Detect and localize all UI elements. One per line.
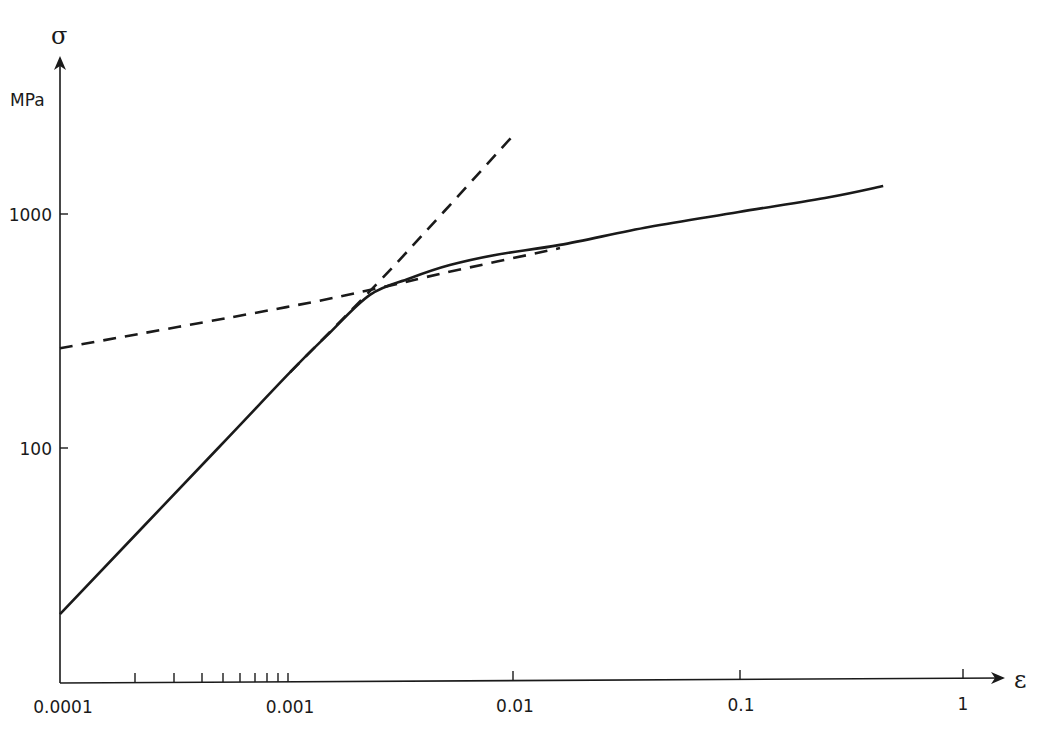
stress-strain-curve-line	[60, 186, 883, 614]
y-axis-unit: MPa	[10, 90, 45, 110]
stress-strain-chart: σ MPa ε 1000 100 0.0001 0.001 0.01 0.1 1	[0, 0, 1054, 748]
x-tick-label-0.01: 0.01	[496, 696, 534, 716]
x-axis-symbol: ε	[1014, 666, 1026, 694]
plastic-asymptote-line	[60, 248, 560, 348]
x-tick-label-0.1: 0.1	[727, 695, 754, 715]
y-axis-symbol: σ	[51, 22, 67, 50]
x-tick-label-0.0001: 0.0001	[33, 697, 92, 717]
series-layer	[60, 136, 883, 614]
x-tick-label-1: 1	[958, 694, 969, 714]
x-tick-label-0.001: 0.001	[266, 697, 315, 717]
elastic-asymptote-line	[290, 136, 512, 372]
y-tick-label-1000: 1000	[9, 205, 52, 225]
y-tick-label-100: 100	[20, 439, 52, 459]
